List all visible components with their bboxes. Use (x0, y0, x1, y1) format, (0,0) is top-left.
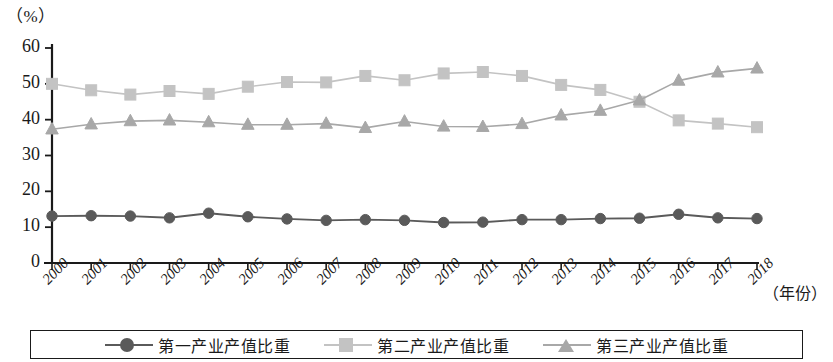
data-point-marker (399, 215, 409, 225)
legend-item-1[interactable]: 第一产业产值比重 (105, 333, 290, 357)
data-point-marker (595, 213, 605, 223)
data-point-marker (203, 88, 214, 99)
y-axis-tick-label: 50 (4, 72, 40, 93)
data-point-marker (202, 115, 215, 126)
data-point-marker (752, 213, 762, 223)
legend-item-2[interactable]: 第二产业产值比重 (324, 333, 509, 357)
data-point-marker (242, 81, 253, 92)
data-point-marker (399, 75, 410, 86)
square-marker-icon (339, 338, 353, 352)
data-point-marker (125, 211, 135, 221)
circle-marker-icon (120, 338, 134, 352)
legend-marker-triangle-icon (543, 336, 591, 354)
triangle-marker-icon (558, 339, 574, 352)
data-point-marker (752, 122, 763, 133)
data-point-marker (673, 209, 683, 219)
data-point-marker (320, 117, 333, 128)
data-point-marker (398, 115, 411, 126)
y-axis-tick-label: 20 (4, 179, 40, 200)
data-point-marker (712, 118, 723, 129)
legend-label: 第一产业产值比重 (158, 333, 290, 357)
data-point-marker (360, 214, 370, 224)
y-axis-tick-label: 0 (4, 251, 40, 272)
data-point-marker (125, 89, 136, 100)
data-point-marker (163, 114, 176, 125)
data-point-marker (203, 208, 213, 218)
data-point-marker (438, 68, 449, 79)
series-1 (47, 208, 762, 228)
data-point-marker (751, 62, 764, 73)
y-axis-tick-label: 40 (4, 108, 40, 129)
x-axis-title: （年份） (763, 280, 827, 304)
legend-marker-circle-icon (105, 336, 153, 354)
data-point-marker (517, 70, 528, 81)
data-point-marker (47, 78, 58, 89)
data-point-marker (124, 114, 136, 125)
legend-marker-square-icon (324, 336, 372, 354)
y-axis-tick-label: 30 (4, 144, 40, 165)
legend-item-3[interactable]: 第三产业产值比重 (543, 333, 728, 357)
data-point-marker (321, 77, 332, 88)
data-point-marker (321, 215, 331, 225)
legend-label: 第三产业产值比重 (596, 333, 728, 357)
data-point-marker (282, 77, 293, 88)
data-point-marker (86, 211, 96, 221)
data-point-marker (713, 213, 723, 223)
data-point-marker (47, 211, 57, 221)
data-point-marker (281, 118, 294, 129)
data-point-marker (242, 118, 255, 129)
data-point-marker (517, 214, 527, 224)
data-point-marker (595, 84, 606, 95)
data-point-marker (634, 213, 644, 223)
data-point-marker (86, 85, 97, 96)
data-point-marker (360, 70, 371, 81)
data-point-marker (243, 212, 253, 222)
y-axis-tick-label: 60 (4, 36, 40, 57)
data-point-marker (438, 217, 448, 227)
data-point-marker (164, 86, 175, 97)
data-point-marker (556, 214, 566, 224)
data-point-marker (477, 67, 488, 78)
chart-legend: 第一产业产值比重第二产业产值比重第三产业产值比重 (30, 330, 803, 359)
y-axis-tick-label: 10 (4, 215, 40, 236)
data-point-marker (673, 115, 684, 126)
data-point-marker (282, 214, 292, 224)
legend-label: 第二产业产值比重 (377, 333, 509, 357)
series-3 (46, 62, 764, 134)
data-point-marker (556, 79, 567, 90)
data-point-marker (164, 213, 174, 223)
industry-share-line-chart: （%） 6050403020100 2000200120022003200420… (0, 0, 833, 362)
data-point-marker (478, 217, 488, 227)
